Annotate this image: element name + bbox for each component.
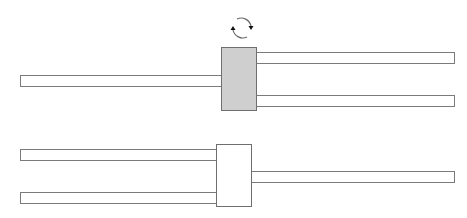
bottom-right-lead [251, 171, 455, 183]
top-left-lead [20, 75, 222, 87]
bottom-left-lead-upper [20, 149, 217, 161]
bottom-left-lead-lower [20, 192, 217, 204]
diagram-canvas: Two block-and-lead configurations: top s… [0, 0, 467, 218]
rotate-circular-arrows-icon [228, 14, 256, 42]
top-right-lead-upper [256, 52, 455, 64]
top-right-lead-lower [256, 95, 455, 107]
bottom-white-block [216, 144, 252, 207]
top-shaded-block [221, 47, 257, 111]
